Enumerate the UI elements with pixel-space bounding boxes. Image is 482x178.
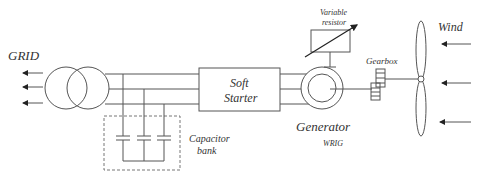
generator-label: Generator [296, 119, 351, 134]
variable-resistor-label-1: Variable [320, 8, 348, 17]
capacitor-label-1: Capacitor [189, 133, 230, 144]
soft-starter-label-2: Starter [224, 91, 258, 105]
capacitor-label-2: bank [197, 145, 217, 156]
variable-resistor-icon [305, 25, 357, 67]
generator-icon [301, 67, 372, 109]
wind-turbine-diagram: GRID Capacitor [0, 0, 482, 178]
wind-label: Wind [438, 20, 464, 34]
grid-label: GRID [8, 48, 40, 63]
capacitor-icon [116, 136, 171, 140]
gearbox-label: Gearbox [366, 56, 398, 66]
grid-arrows [23, 73, 43, 103]
generator-type-label: WRIG [323, 139, 343, 148]
bus-lines [105, 74, 199, 104]
soft-starter-label-1: Soft [230, 76, 249, 90]
capacitor-bank [104, 74, 180, 170]
variable-resistor-label-2: resistor [322, 18, 347, 27]
gearbox-icon [371, 69, 418, 100]
hub [418, 76, 424, 82]
transformer-icon [45, 67, 109, 109]
capacitor-bank-boundary [104, 116, 180, 170]
wind-arrows [440, 44, 471, 122]
